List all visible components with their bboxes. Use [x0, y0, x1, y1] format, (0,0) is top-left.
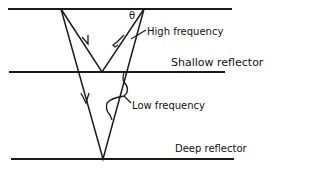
- theta-label: θ: [129, 11, 135, 21]
- low-frequency-pointer: [124, 96, 131, 103]
- deep-reflector-label: Deep reflector: [175, 144, 247, 154]
- low-frequency-label: Low frequency: [132, 101, 205, 111]
- deep-ray-path: [61, 9, 144, 159]
- high-frequency-label: High frequency: [147, 27, 223, 37]
- shallow-reflector-label: Shallow reflector: [171, 57, 263, 68]
